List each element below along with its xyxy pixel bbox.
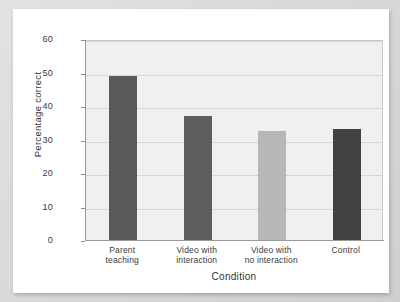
plot-area — [85, 40, 383, 241]
y-axis-tick-label: 10 — [13, 202, 53, 212]
x-axis-line — [85, 240, 384, 241]
y-axis-tick-label: 60 — [13, 34, 53, 44]
y-axis-tick-label: 50 — [13, 68, 53, 78]
y-axis-tick-label: 20 — [13, 168, 53, 178]
y-axis-tick-label: 30 — [13, 135, 53, 145]
bar — [333, 129, 361, 240]
x-axis-tick-label: Video withno interaction — [234, 245, 309, 265]
y-axis-tick-label: 0 — [13, 235, 53, 245]
bar — [258, 131, 286, 240]
x-axis-tick-label-line: Video with — [234, 245, 309, 255]
x-axis-tick-label-line: Video with — [160, 245, 235, 255]
bar — [109, 76, 137, 240]
x-axis-tick-label: Parentteaching — [85, 245, 160, 265]
x-axis-tick-label-line: interaction — [160, 255, 235, 265]
x-axis-tick-label-line: Control — [309, 245, 384, 255]
y-axis-tick-mark — [81, 107, 85, 108]
bar — [184, 116, 212, 240]
x-axis-tick-label: Control — [309, 245, 384, 255]
x-axis-tick-label: Video withinteraction — [160, 245, 235, 265]
figure-backdrop: Percentage correct Condition 01020304050… — [0, 0, 400, 302]
chart-card: Percentage correct Condition 01020304050… — [13, 9, 389, 293]
x-axis-tick-label-line: no interaction — [234, 255, 309, 265]
x-axis-tick-label-line: Parent — [85, 245, 160, 255]
x-axis-title: Condition — [85, 271, 383, 282]
x-axis-tick-label-line: teaching — [85, 255, 160, 265]
y-axis-tick-mark — [81, 141, 85, 142]
y-axis-tick-mark — [81, 208, 85, 209]
y-axis-line — [85, 40, 86, 241]
y-axis-tick-mark — [81, 241, 85, 242]
y-axis-title: Percentage correct — [32, 45, 43, 185]
y-axis-tick-label: 40 — [13, 101, 53, 111]
y-axis-tick-mark — [81, 40, 85, 41]
y-axis-tick-mark — [81, 74, 85, 75]
gridline — [86, 41, 382, 42]
y-axis-tick-mark — [81, 174, 85, 175]
